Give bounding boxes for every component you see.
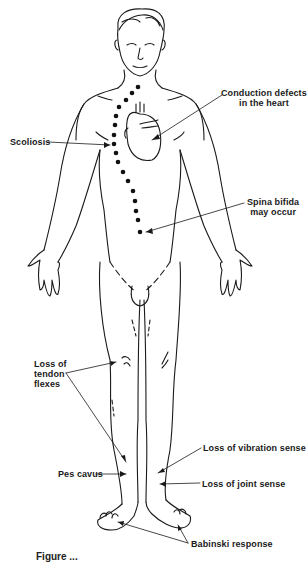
- heart-drawing: [125, 102, 161, 160]
- neck-outline: [118, 70, 162, 88]
- label-conduction-line1: Conduction defects: [221, 88, 307, 98]
- scoliosis-callout-line: [48, 142, 110, 145]
- label-conduction-defects: Conduction defects in the heart: [221, 88, 307, 108]
- label-conduction-line2: in the heart: [221, 98, 307, 108]
- right-arm-outline: [180, 104, 252, 296]
- babinski-callout-line-left: [118, 522, 188, 543]
- head-outline: [115, 9, 165, 76]
- label-babinski-response: Babinski response: [191, 539, 273, 549]
- label-tendon-line3: flexes: [34, 379, 67, 389]
- figure-caption-cut-off: Figure ...: [36, 551, 78, 562]
- label-tendon-flexes: Loss of tendon flexes: [34, 359, 67, 389]
- left-arm-outline: [28, 104, 100, 296]
- conduction-callout-line: [152, 95, 222, 140]
- callout-arrowheads: [104, 134, 182, 531]
- label-spina-bifida-line1: Spina bifida: [247, 197, 299, 207]
- spina-bifida-callout-line: [146, 203, 244, 232]
- legs-outline: [99, 262, 180, 504]
- label-spina-bifida-line2: may occur: [247, 207, 299, 217]
- label-vibration-sense: Loss of vibration sense: [203, 443, 306, 453]
- right-foot-outline: [146, 500, 191, 528]
- label-joint-sense: Loss of joint sense: [202, 479, 285, 489]
- label-tendon-line2: tendon: [34, 369, 67, 379]
- vibration-callout-line: [158, 448, 201, 473]
- scoliosis-spine-dots: [112, 85, 143, 235]
- tendon-callout-line-lower: [66, 373, 126, 462]
- tendon-callout-line-upper: [66, 362, 116, 373]
- label-tendon-line1: Loss of: [34, 359, 67, 369]
- label-spina-bifida: Spina bifida may occur: [247, 197, 299, 217]
- label-scoliosis: Scoliosis: [10, 137, 50, 147]
- label-pes-cavus: Pes cavus: [58, 469, 103, 479]
